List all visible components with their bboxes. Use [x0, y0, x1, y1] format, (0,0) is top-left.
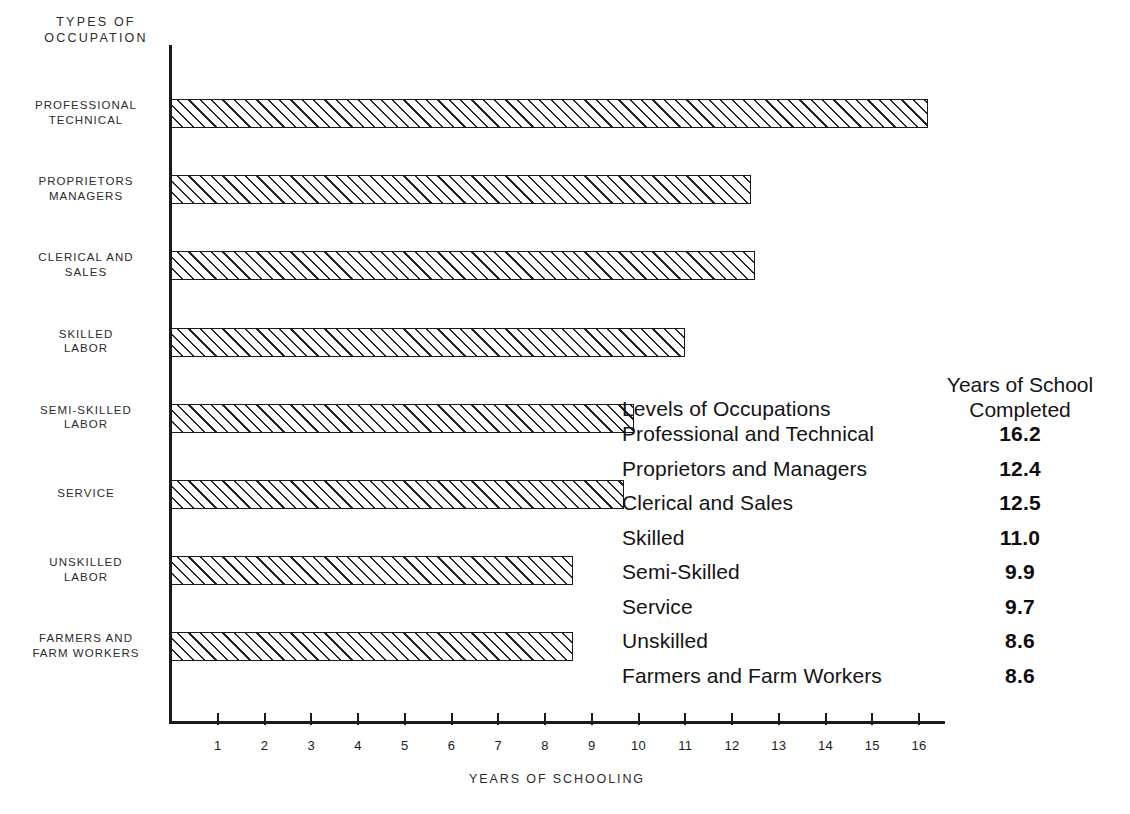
x-tick-label: 15 [857, 738, 887, 753]
table-cell-years: 12.5 [922, 491, 1118, 515]
bar [171, 480, 624, 509]
x-tick-label: 6 [437, 738, 467, 753]
x-tick-label: 10 [624, 738, 654, 753]
table-row: Clerical and Sales12.5 [622, 491, 1118, 526]
bar [171, 99, 928, 128]
x-tick-mark [684, 713, 686, 725]
x-tick-mark [217, 713, 219, 725]
category-label: SKILLED LABOR [12, 327, 160, 356]
table-row: Service9.7 [622, 595, 1118, 630]
category-label: PROPRIETORS MANAGERS [12, 174, 160, 203]
x-tick-label: 9 [577, 738, 607, 753]
x-tick-mark [731, 713, 733, 725]
x-tick-label: 3 [296, 738, 326, 753]
bar [171, 175, 751, 204]
x-tick-label: 16 [904, 738, 934, 753]
bar [171, 556, 573, 585]
table-cell-occupation: Unskilled [622, 629, 922, 653]
x-tick-label: 2 [250, 738, 280, 753]
x-tick-mark [357, 713, 359, 725]
category-label: SEMI-SKILLED LABOR [12, 403, 160, 432]
table-cell-years: 11.0 [922, 526, 1118, 550]
table-header-row: Levels of Occupations Years of School Co… [622, 372, 1118, 422]
chart-page: TYPES OF OCCUPATION PROFESSIONAL TECHNIC… [0, 0, 1130, 814]
x-tick-mark [264, 713, 266, 725]
bar [171, 251, 755, 280]
x-tick-mark [871, 713, 873, 725]
table-cell-years: 8.6 [922, 629, 1118, 653]
table-cell-occupation: Professional and Technical [622, 422, 922, 446]
x-tick-mark [544, 713, 546, 725]
table-cell-years: 8.6 [922, 664, 1118, 688]
x-tick-mark [497, 713, 499, 725]
category-label: UNSKILLED LABOR [12, 555, 160, 584]
x-tick-mark [404, 713, 406, 725]
table-cell-years: 9.9 [922, 560, 1118, 584]
table-header-years: Years of School Completed [922, 372, 1118, 422]
y-axis-title: TYPES OF OCCUPATION [36, 14, 156, 46]
x-tick-label: 5 [390, 738, 420, 753]
x-tick-label: 8 [530, 738, 560, 753]
table-row: Semi-Skilled9.9 [622, 560, 1118, 595]
bar [171, 328, 685, 357]
bar [171, 632, 573, 661]
table-cell-occupation: Skilled [622, 526, 922, 550]
table-row: Proprietors and Managers12.4 [622, 457, 1118, 492]
x-tick-label: 11 [670, 738, 700, 753]
x-tick-mark [825, 713, 827, 725]
x-tick-mark [638, 713, 640, 725]
table-cell-occupation: Service [622, 595, 922, 619]
category-label: FARMERS AND FARM WORKERS [12, 631, 160, 660]
x-tick-label: 14 [811, 738, 841, 753]
x-tick-mark [310, 713, 312, 725]
x-tick-mark [918, 713, 920, 725]
category-label: CLERICAL AND SALES [12, 250, 160, 279]
table-cell-occupation: Proprietors and Managers [622, 457, 922, 481]
x-tick-label: 7 [483, 738, 513, 753]
x-tick-mark [451, 713, 453, 725]
x-tick-mark [778, 713, 780, 725]
x-tick-mark [591, 713, 593, 725]
table-cell-years: 12.4 [922, 457, 1118, 481]
x-tick-label: 12 [717, 738, 747, 753]
table-row: Professional and Technical16.2 [622, 422, 1118, 457]
x-axis-title: YEARS OF SCHOOLING [169, 772, 945, 786]
x-tick-label: 1 [203, 738, 233, 753]
x-tick-label: 4 [343, 738, 373, 753]
table-cell-years: 9.7 [922, 595, 1118, 619]
table-header-occupations: Levels of Occupations [622, 397, 922, 422]
bar [171, 404, 634, 433]
table-cell-occupation: Farmers and Farm Workers [622, 664, 922, 688]
table-body: Professional and Technical16.2Proprietor… [622, 422, 1118, 698]
category-label: PROFESSIONAL TECHNICAL [12, 98, 160, 127]
table-cell-years: 16.2 [922, 422, 1118, 446]
y-axis-line [169, 45, 172, 724]
table-row: Unskilled8.6 [622, 629, 1118, 664]
table-row: Farmers and Farm Workers8.6 [622, 664, 1118, 699]
table-row: Skilled11.0 [622, 526, 1118, 561]
table-cell-occupation: Semi-Skilled [622, 560, 922, 584]
x-axis-line [169, 721, 945, 724]
data-table: Levels of Occupations Years of School Co… [622, 372, 1118, 698]
x-tick-label: 13 [764, 738, 794, 753]
category-label: SERVICE [12, 486, 160, 501]
table-cell-occupation: Clerical and Sales [622, 491, 922, 515]
